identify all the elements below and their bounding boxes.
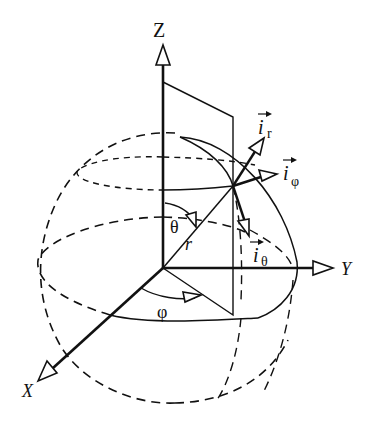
svg-text:r: r bbox=[267, 126, 272, 141]
latitude-circle-top-dashed bbox=[77, 157, 163, 190]
meridian-arc-lower-dashed bbox=[233, 186, 242, 300]
svg-text:i: i bbox=[253, 244, 259, 266]
vector-bar-arrow-icon bbox=[266, 111, 272, 117]
equator-front-solid bbox=[110, 315, 258, 321]
theta-angle-label: θ bbox=[170, 217, 179, 237]
x-axis bbox=[53, 268, 163, 368]
x-axis-arrowhead bbox=[38, 361, 57, 381]
meridian-arc-through-point bbox=[180, 137, 233, 186]
z-axis-arrowhead bbox=[156, 45, 170, 65]
sphere-outline-bottom-dashed bbox=[175, 340, 288, 403]
vector-bar-arrow-icon bbox=[291, 157, 297, 163]
x-axis-label: X bbox=[21, 381, 34, 401]
unit-vector-iphi-label: i φ bbox=[283, 157, 299, 189]
latitude-circle-top-solid bbox=[163, 186, 233, 190]
theta-angle-arrowhead bbox=[186, 212, 196, 227]
spherical-coordinates-diagram: Z Y X θ φ r i r i φ i θ bbox=[0, 0, 372, 426]
unit-vector-iphi-arrowhead bbox=[259, 170, 277, 181]
y-axis-label: Y bbox=[341, 259, 353, 279]
phi-angle-arrowhead bbox=[183, 292, 201, 302]
svg-text:i: i bbox=[283, 162, 289, 184]
svg-text:θ: θ bbox=[261, 254, 268, 269]
unit-vector-ir-arrowhead bbox=[249, 138, 264, 155]
sphere-right-lower-dashed bbox=[262, 280, 293, 395]
phi-angle-label: φ bbox=[157, 302, 167, 322]
y-axis-arrowhead bbox=[313, 261, 333, 275]
unit-vector-itheta-label: i θ bbox=[250, 239, 268, 269]
svg-text:i: i bbox=[258, 116, 264, 138]
z-axis-label: Z bbox=[153, 19, 165, 41]
meridian-arc-lower-continue bbox=[217, 318, 241, 400]
equator-dashed-back bbox=[38, 217, 163, 315]
radius-label: r bbox=[185, 234, 193, 254]
svg-text:φ: φ bbox=[291, 174, 299, 189]
vector-bar-arrow-icon bbox=[258, 239, 264, 245]
